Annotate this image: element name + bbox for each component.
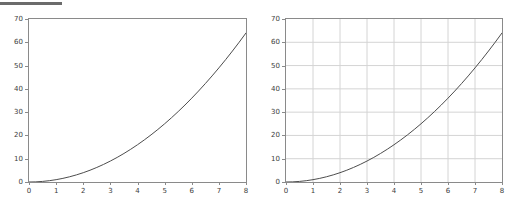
y-tick-mark bbox=[282, 112, 285, 113]
x-tick-label: 3 bbox=[108, 187, 112, 195]
y-tick-mark bbox=[282, 42, 285, 43]
y-tick-mark bbox=[282, 159, 285, 160]
x-tick-mark bbox=[502, 182, 503, 185]
y-tick-mark bbox=[25, 66, 28, 67]
x-tick-label: 2 bbox=[81, 187, 85, 195]
y-tick-mark bbox=[25, 182, 28, 183]
y-tick-mark bbox=[282, 66, 285, 67]
x-tick-mark bbox=[367, 182, 368, 185]
x-tick-label: 1 bbox=[311, 187, 315, 195]
x-tick-mark bbox=[421, 182, 422, 185]
y-tick-label: 40 bbox=[6, 85, 23, 93]
x-tick-mark bbox=[83, 182, 84, 185]
x-tick-mark bbox=[138, 182, 139, 185]
y-tick-label: 50 bbox=[263, 62, 280, 70]
x-tick-label: 7 bbox=[217, 187, 221, 195]
x-tick-label: 2 bbox=[338, 187, 342, 195]
y-tick-label: 0 bbox=[263, 178, 280, 186]
y-tick-mark bbox=[25, 135, 28, 136]
x-tick-mark bbox=[110, 182, 111, 185]
y-tick-label: 50 bbox=[6, 62, 23, 70]
y-tick-label: 70 bbox=[6, 15, 23, 23]
y-tick-label: 40 bbox=[263, 85, 280, 93]
x-tick-label: 4 bbox=[135, 187, 139, 195]
y-tick-label: 30 bbox=[263, 108, 280, 116]
x-tick-mark bbox=[56, 182, 57, 185]
x-tick-mark bbox=[340, 182, 341, 185]
x-tick-label: 0 bbox=[284, 187, 288, 195]
x-tick-mark bbox=[286, 182, 287, 185]
x-tick-mark bbox=[192, 182, 193, 185]
figure-canvas: 010203040506070012345678 010203040506070… bbox=[0, 0, 516, 206]
y-tick-label: 10 bbox=[263, 155, 280, 163]
x-tick-mark bbox=[394, 182, 395, 185]
y-tick-mark bbox=[25, 19, 28, 20]
x-tick-mark bbox=[165, 182, 166, 185]
y-tick-label: 70 bbox=[263, 15, 280, 23]
x-tick-label: 1 bbox=[54, 187, 58, 195]
x-tick-label: 7 bbox=[473, 187, 477, 195]
y-tick-mark bbox=[25, 112, 28, 113]
y-tick-mark bbox=[25, 89, 28, 90]
x-tick-mark bbox=[246, 182, 247, 185]
y-tick-label: 60 bbox=[263, 38, 280, 46]
x-tick-mark bbox=[448, 182, 449, 185]
chart-panel-right: 010203040506070012345678 bbox=[258, 0, 516, 206]
y-tick-label: 60 bbox=[6, 38, 23, 46]
y-tick-mark bbox=[25, 159, 28, 160]
y-tick-mark bbox=[282, 182, 285, 183]
x-tick-mark bbox=[313, 182, 314, 185]
plot-area-left bbox=[28, 18, 247, 183]
x-tick-label: 4 bbox=[392, 187, 396, 195]
x-tick-label: 5 bbox=[162, 187, 166, 195]
x-tick-label: 3 bbox=[365, 187, 369, 195]
x-tick-mark bbox=[219, 182, 220, 185]
y-tick-mark bbox=[282, 135, 285, 136]
plot-curve-left bbox=[29, 19, 246, 182]
data-series-line bbox=[29, 33, 246, 182]
y-tick-label: 20 bbox=[6, 131, 23, 139]
x-tick-label: 6 bbox=[446, 187, 450, 195]
y-tick-mark bbox=[282, 89, 285, 90]
plot-curve-right bbox=[286, 19, 502, 182]
y-tick-label: 10 bbox=[6, 155, 23, 163]
x-tick-label: 6 bbox=[190, 187, 194, 195]
x-tick-label: 8 bbox=[244, 187, 248, 195]
y-tick-label: 30 bbox=[6, 108, 23, 116]
x-tick-label: 0 bbox=[27, 187, 31, 195]
chart-panel-left: 010203040506070012345678 bbox=[0, 0, 258, 206]
y-tick-label: 0 bbox=[6, 178, 23, 186]
x-tick-label: 8 bbox=[500, 187, 504, 195]
y-tick-label: 20 bbox=[263, 131, 280, 139]
plot-area-right bbox=[285, 18, 503, 183]
y-tick-mark bbox=[282, 19, 285, 20]
x-tick-label: 5 bbox=[419, 187, 423, 195]
x-tick-mark bbox=[475, 182, 476, 185]
x-tick-mark bbox=[29, 182, 30, 185]
y-tick-mark bbox=[25, 42, 28, 43]
